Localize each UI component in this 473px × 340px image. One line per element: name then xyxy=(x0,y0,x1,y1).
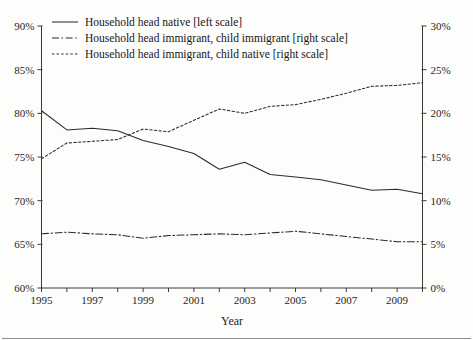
x-tick-label: 1999 xyxy=(132,294,155,306)
legend-label-0: Household head native [left scale] xyxy=(85,16,242,28)
line-chart: 60%65%70%75%80%85%90% 0%5%10%15%20%25%30… xyxy=(0,0,473,340)
chart-figure: 60%65%70%75%80%85%90% 0%5%10%15%20%25%30… xyxy=(0,0,473,340)
right-tick-label: 20% xyxy=(431,107,451,119)
x-tick-label: 2005 xyxy=(285,294,308,306)
right-tick-label: 5% xyxy=(431,238,446,250)
left-tick-label: 80% xyxy=(14,107,34,119)
x-tick-label: 1995 xyxy=(31,294,54,306)
x-tick-label: 1997 xyxy=(81,294,104,306)
series-line-2 xyxy=(42,83,423,159)
left-tick-label: 70% xyxy=(14,195,34,207)
left-tick-label: 85% xyxy=(14,64,34,76)
data-series-group xyxy=(42,83,423,242)
right-tick-label: 30% xyxy=(431,20,451,32)
x-axis-ticks: 19951997199920012003200520072009 xyxy=(31,288,423,306)
right-tick-label: 15% xyxy=(431,151,451,163)
right-tick-label: 10% xyxy=(431,195,451,207)
legend-label-2: Household head immigrant, child native [… xyxy=(85,48,328,61)
plot-axes xyxy=(42,26,423,288)
x-axis-title: Year xyxy=(221,314,243,328)
left-tick-label: 90% xyxy=(14,20,34,32)
series-line-1 xyxy=(42,231,423,241)
left-tick-label: 60% xyxy=(14,282,34,294)
right-axis-ticks: 0%5%10%15%20%25%30% xyxy=(422,20,451,294)
left-tick-label: 65% xyxy=(14,238,34,250)
right-tick-label: 25% xyxy=(431,64,451,76)
chart-legend: Household head native [left scale]Househ… xyxy=(52,16,348,61)
legend-label-1: Household head immigrant, child immigran… xyxy=(85,32,348,45)
left-axis-ticks: 60%65%70%75%80%85%90% xyxy=(14,20,42,294)
left-tick-label: 75% xyxy=(14,151,34,163)
x-tick-label: 2003 xyxy=(234,294,257,306)
x-tick-label: 2007 xyxy=(335,294,358,306)
x-tick-label: 2009 xyxy=(386,294,409,306)
x-tick-label: 2001 xyxy=(183,294,205,306)
series-line-0 xyxy=(42,111,423,194)
right-tick-label: 0% xyxy=(431,282,446,294)
